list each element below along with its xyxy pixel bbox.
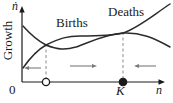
flow-arrow-right-region-head	[134, 64, 139, 68]
equilibrium-marker-unstable	[42, 78, 49, 85]
origin-label: 0	[9, 83, 16, 96]
y-axis-symbol-label: ṅ	[12, 0, 18, 12]
flow-arrow-right-region	[134, 64, 156, 68]
flow-arrow-middle-region	[70, 64, 97, 68]
x-axis-title: n	[156, 84, 162, 96]
carrying-capacity-label: K	[116, 84, 125, 97]
y-axis-arrowhead	[19, 6, 24, 13]
deaths-curve-label: Deaths	[108, 5, 144, 18]
flow-arrow-middle-region-head	[92, 64, 97, 68]
y-axis	[19, 6, 24, 82]
flow-arrow-left-region	[24, 66, 41, 70]
population-growth-figure: ṅ Growth Births Deaths 0 K n	[0, 0, 173, 103]
y-axis-title: Growth	[1, 21, 14, 61]
births-curve-label: Births	[56, 16, 88, 29]
